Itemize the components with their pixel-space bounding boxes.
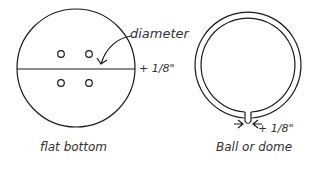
inner-ring xyxy=(201,18,295,112)
gap-notch xyxy=(245,112,251,124)
ball-dome-diagram xyxy=(195,12,301,128)
flat-bottom-diagram xyxy=(17,9,135,127)
ball-dome-caption: Ball or dome xyxy=(216,140,292,154)
diameter-arrow-icon xyxy=(101,36,131,64)
outer-ring xyxy=(195,12,301,118)
left-arrow-icon xyxy=(234,120,243,128)
flat-allowance-label: + 1/8" xyxy=(139,62,174,75)
hole-icon xyxy=(58,80,65,87)
flat-bottom-caption: flat bottom xyxy=(40,140,107,154)
dome-allowance-label: + 1/8" xyxy=(258,122,293,135)
diameter-label: diameter xyxy=(130,26,189,41)
hole-icon xyxy=(86,51,93,58)
flat-bottom-circle xyxy=(17,9,135,127)
hole-icon xyxy=(86,80,93,87)
hole-icon xyxy=(58,51,65,58)
